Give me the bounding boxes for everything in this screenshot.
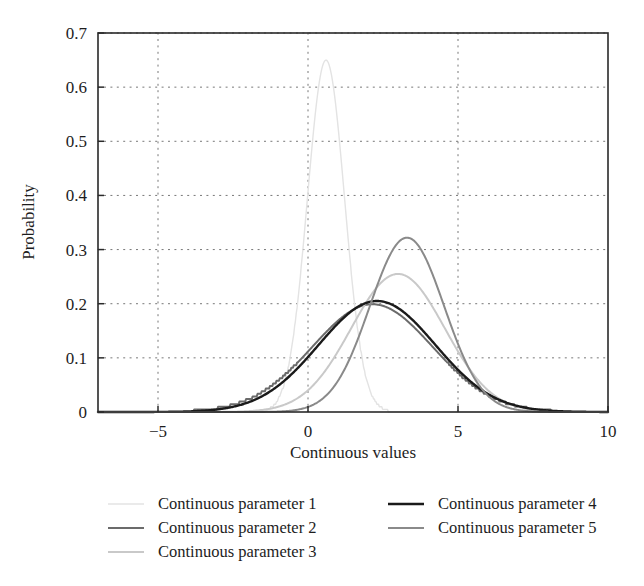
y-axis-title: Probability <box>19 184 38 260</box>
x-tick-label: −5 <box>149 422 167 441</box>
legend-label: Continuous parameter 3 <box>158 542 317 561</box>
legend-label: Continuous parameter 4 <box>438 494 597 513</box>
legend-label: Continuous parameter 1 <box>158 494 317 513</box>
x-axis-title: Continuous values <box>290 443 416 462</box>
legend-label: Continuous parameter 5 <box>438 518 597 537</box>
y-tick-label: 0.5 <box>66 132 87 151</box>
chart-canvas: 00.10.20.30.40.50.60.7 −50510 Continuous… <box>0 0 644 586</box>
probability-distribution-figure: 00.10.20.30.40.50.60.7 −50510 Continuous… <box>0 0 644 586</box>
y-tick-label: 0.6 <box>66 78 87 97</box>
legend-label: Continuous parameter 2 <box>158 518 317 537</box>
x-tick-label: 5 <box>454 422 463 441</box>
y-tick-label: 0.4 <box>66 186 88 205</box>
x-tick-label: 0 <box>304 422 313 441</box>
y-tick-label: 0.3 <box>66 241 87 260</box>
y-tick-label: 0.7 <box>66 24 88 43</box>
y-tick-label: 0.1 <box>66 349 87 368</box>
y-tick-label: 0 <box>79 403 88 422</box>
y-tick-label: 0.2 <box>66 295 87 314</box>
x-tick-label: 10 <box>600 422 617 441</box>
